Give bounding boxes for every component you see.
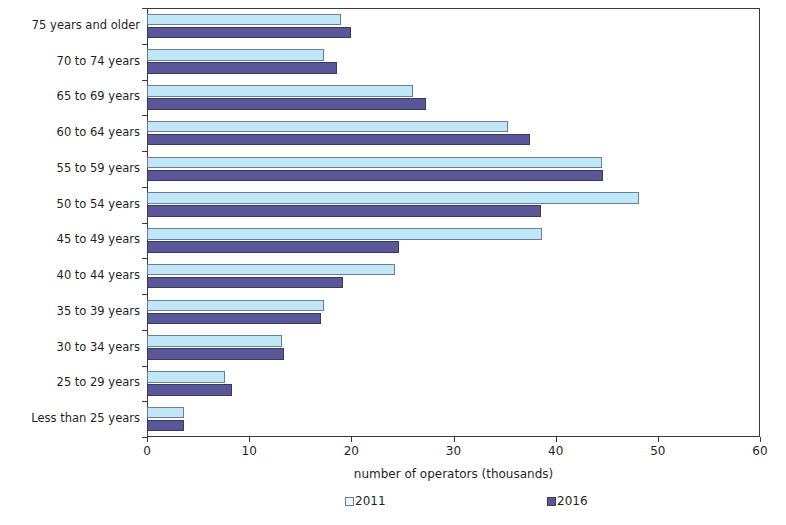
x-tick-50 bbox=[658, 437, 659, 442]
x-tick-20 bbox=[351, 437, 352, 442]
bar-2011-5 bbox=[147, 157, 602, 169]
bar-2011-6 bbox=[147, 192, 639, 204]
y-axis-ticks bbox=[0, 8, 150, 438]
bar-2016-3 bbox=[147, 98, 426, 110]
bar-2011-8 bbox=[147, 264, 395, 276]
bar-2016-7 bbox=[147, 241, 399, 253]
bar-2011-1 bbox=[147, 14, 341, 26]
bars-layer bbox=[147, 8, 760, 437]
bar-2016-11 bbox=[147, 384, 232, 396]
x-tick-0 bbox=[147, 437, 148, 442]
bar-2011-4 bbox=[147, 121, 508, 133]
bar-2011-12 bbox=[147, 407, 184, 419]
legend-label-2011: 2011 bbox=[355, 494, 386, 508]
bar-2016-2 bbox=[147, 62, 337, 74]
x-tick-label-30: 30 bbox=[434, 444, 474, 458]
x-axis-ticks bbox=[147, 437, 760, 443]
bar-2011-10 bbox=[147, 335, 282, 347]
x-tick-label-20: 20 bbox=[331, 444, 371, 458]
x-tick-label-60: 60 bbox=[740, 444, 780, 458]
chart-legend: 20112016 bbox=[147, 494, 760, 512]
bar-2016-12 bbox=[147, 420, 184, 432]
bar-2016-6 bbox=[147, 205, 541, 217]
x-tick-30 bbox=[454, 437, 455, 442]
bar-2016-5 bbox=[147, 170, 603, 182]
x-tick-label-40: 40 bbox=[536, 444, 576, 458]
x-tick-label-0: 0 bbox=[127, 444, 167, 458]
bar-2011-7 bbox=[147, 228, 542, 240]
bar-2016-1 bbox=[147, 27, 351, 39]
bar-2011-11 bbox=[147, 371, 225, 383]
bar-2016-10 bbox=[147, 348, 284, 360]
x-tick-10 bbox=[249, 437, 250, 442]
x-tick-label-50: 50 bbox=[638, 444, 678, 458]
legend-swatch-icon-2011 bbox=[345, 497, 354, 506]
x-tick-40 bbox=[556, 437, 557, 442]
legend-label-2016: 2016 bbox=[557, 494, 588, 508]
legend-item-2016[interactable]: 2016 bbox=[547, 494, 588, 508]
legend-swatch-icon-2016 bbox=[547, 497, 556, 506]
bar-chart: 75 years and older70 to 74 years65 to 69… bbox=[0, 0, 786, 525]
x-axis-tick-labels: 0102030405060 bbox=[0, 444, 786, 460]
bar-2011-3 bbox=[147, 85, 413, 97]
x-tick-label-10: 10 bbox=[229, 444, 269, 458]
bar-2016-9 bbox=[147, 313, 321, 325]
x-axis-title: number of operators (thousands) bbox=[147, 467, 760, 481]
bar-2011-9 bbox=[147, 300, 324, 312]
bar-2016-4 bbox=[147, 134, 530, 146]
x-tick-60 bbox=[760, 437, 761, 442]
legend-item-2011[interactable]: 2011 bbox=[345, 494, 386, 508]
bar-2011-2 bbox=[147, 49, 324, 61]
bar-2016-8 bbox=[147, 277, 343, 289]
